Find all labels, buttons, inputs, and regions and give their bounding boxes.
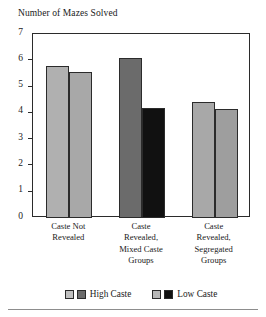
y-tick-label: 6 bbox=[3, 53, 23, 63]
x-group-label-1: Caste NotRevealed bbox=[32, 221, 105, 283]
legend-swatch-pair bbox=[152, 290, 173, 299]
x-group-label-line: Mixed Caste bbox=[106, 244, 177, 255]
x-group-label-line: Revealed, bbox=[106, 232, 177, 243]
x-group-label-line: Caste bbox=[178, 221, 249, 232]
legend-swatch bbox=[164, 290, 173, 299]
y-tick-label: 5 bbox=[3, 79, 23, 89]
x-axis-labels: Caste NotRevealedCasteRevealed,Mixed Cas… bbox=[32, 221, 250, 283]
y-tick-label: 2 bbox=[3, 158, 23, 168]
plot-area bbox=[32, 33, 250, 217]
bars-layer bbox=[33, 34, 251, 218]
legend-label: High Caste bbox=[90, 289, 132, 299]
y-tick-label: 0 bbox=[3, 211, 23, 221]
legend-swatch bbox=[65, 290, 74, 299]
x-group-label-3: CasteRevealed,SegregatedGroups bbox=[177, 221, 250, 283]
y-tick-label: 1 bbox=[3, 184, 23, 194]
legend-label: Low Caste bbox=[177, 289, 217, 299]
bar-high-caste-group-3 bbox=[192, 102, 215, 218]
x-group-label-line: Revealed, bbox=[178, 232, 249, 243]
y-tick-label: 7 bbox=[3, 27, 23, 37]
bar-high-caste-group-1 bbox=[46, 66, 69, 218]
bar-high-caste-group-2 bbox=[119, 58, 142, 218]
y-tick-label: 3 bbox=[3, 132, 23, 142]
bar-low-caste-group-2 bbox=[142, 108, 165, 218]
legend-entry-1: High Caste bbox=[65, 289, 132, 299]
y-tick-label: 4 bbox=[3, 105, 23, 115]
x-group-label-line: Caste bbox=[106, 221, 177, 232]
y-axis: 76543210 bbox=[0, 33, 32, 217]
x-group-label-line: Groups bbox=[178, 255, 249, 266]
bottom-divider bbox=[8, 309, 258, 310]
legend-swatch-pair bbox=[65, 290, 86, 299]
x-group-label-line: Segregated bbox=[178, 244, 249, 255]
x-group-label-line: Revealed bbox=[33, 232, 104, 243]
bar-low-caste-group-3 bbox=[215, 109, 238, 218]
legend-entry-2: Low Caste bbox=[152, 289, 217, 299]
x-group-label-line: Groups bbox=[106, 255, 177, 266]
legend-swatch bbox=[77, 290, 86, 299]
chart-title: Number of Mazes Solved bbox=[18, 8, 118, 18]
chart-legend: High CasteLow Caste bbox=[32, 286, 250, 302]
bar-low-caste-group-1 bbox=[69, 72, 92, 218]
chart-figure: Number of Mazes Solved 76543210 Caste No… bbox=[0, 0, 266, 317]
legend-swatch bbox=[152, 290, 161, 299]
x-group-label-line: Caste Not bbox=[33, 221, 104, 232]
x-group-label-2: CasteRevealed,Mixed CasteGroups bbox=[105, 221, 178, 283]
